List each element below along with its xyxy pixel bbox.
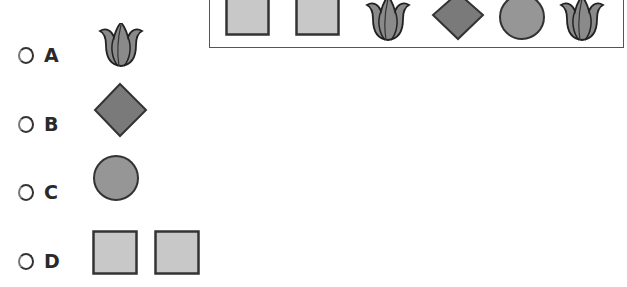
square-shape <box>295 0 341 37</box>
diamond-shape <box>431 0 485 41</box>
option-d[interactable]: D <box>18 250 60 272</box>
radio-button-b[interactable] <box>18 116 34 133</box>
radio-button-a[interactable] <box>18 47 34 64</box>
square-shape <box>225 0 271 37</box>
square-shape <box>92 230 139 276</box>
option-label: C <box>44 181 58 203</box>
diamond-shape <box>93 82 149 138</box>
option-label: A <box>44 44 59 66</box>
sequence-box <box>209 0 624 48</box>
option-label: B <box>44 113 58 135</box>
tulip-icon <box>96 23 146 68</box>
radio-button-c[interactable] <box>18 184 34 201</box>
radio-button-d[interactable] <box>18 253 34 270</box>
option-b[interactable]: B <box>18 113 58 135</box>
tulip-icon <box>557 0 607 42</box>
square-shape <box>154 230 201 276</box>
circle-shape <box>92 154 142 204</box>
option-a[interactable]: A <box>18 44 59 66</box>
circle-shape <box>498 0 546 43</box>
option-c[interactable]: C <box>18 181 58 203</box>
tulip-icon <box>363 0 413 42</box>
option-label: D <box>44 250 60 272</box>
